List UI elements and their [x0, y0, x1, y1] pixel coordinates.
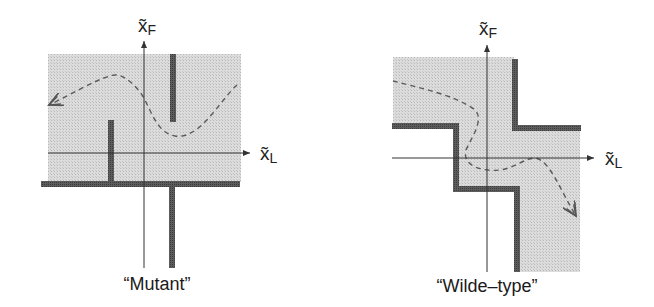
diagram-canvas: x̃F x̃L “Mutant” x̃F x̃L “Wilde–type”	[0, 0, 654, 307]
wall-upper-right	[515, 59, 581, 128]
x-axis-label: x̃L	[605, 148, 623, 171]
panel-caption: “Mutant”	[123, 274, 190, 294]
wall-left-vertical	[108, 120, 114, 184]
wild-type-panel: x̃F x̃L “Wilde–type”	[392, 18, 623, 296]
y-axis-label: x̃F	[479, 18, 497, 41]
y-axis-label: x̃F	[138, 15, 156, 38]
panel-caption: “Wilde–type”	[436, 276, 537, 296]
wall-horizontal	[41, 181, 240, 187]
mutant-panel: x̃F x̃L “Mutant”	[41, 15, 278, 294]
wall-upper-vertical	[170, 54, 176, 122]
x-axis-label: x̃L	[260, 143, 278, 166]
wall-lower-vertical	[169, 184, 175, 268]
